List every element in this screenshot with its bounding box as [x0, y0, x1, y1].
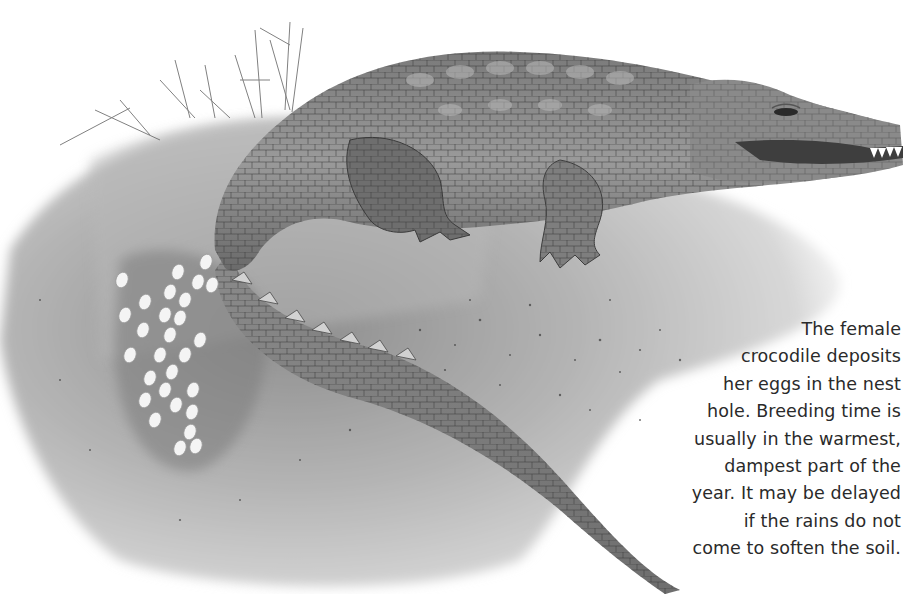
- caption-text: The female crocodile deposits her eggs i…: [641, 316, 901, 563]
- caption-line: dampest part of the: [641, 453, 901, 480]
- caption-line: come to soften the soil.: [641, 535, 901, 562]
- caption-line: The female: [641, 316, 901, 343]
- eye: [774, 108, 798, 116]
- caption-line: year. It may be delayed: [641, 480, 901, 507]
- crocodile-head: [690, 80, 903, 183]
- caption-line: if the rains do not: [641, 508, 901, 535]
- caption-line: crocodile deposits: [641, 343, 901, 370]
- caption-line: her eggs in the nest: [641, 371, 901, 398]
- caption-line: usually in the warmest,: [641, 426, 901, 453]
- caption-line: hole. Breeding time is: [641, 398, 901, 425]
